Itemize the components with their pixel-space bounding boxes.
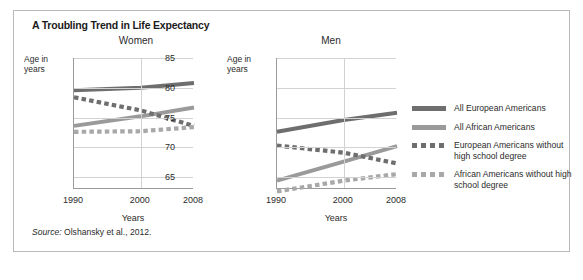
legend-swatch-dashed: [412, 143, 446, 148]
gridline-y: [277, 118, 396, 119]
panel-title-women: Women: [76, 35, 196, 46]
series-line: [277, 113, 397, 132]
y-axis-title-women: Age in years: [24, 54, 68, 74]
gridline-x: [141, 58, 142, 188]
source-citation: Olshansky et al., 2012.: [64, 227, 151, 237]
source-label: Source:: [32, 227, 62, 237]
x-tick-label: 2000: [130, 195, 150, 205]
legend-label: All European Americans: [454, 103, 546, 114]
legend-item: All European Americans: [412, 103, 577, 114]
x-tick-label: 2008: [386, 195, 406, 205]
legend-swatch-solid: [412, 125, 446, 130]
y-tick-label: 70: [145, 142, 175, 152]
legend-label: European Americans without high school d…: [454, 140, 577, 161]
series-layer-men: [277, 58, 397, 189]
legend-item: African Americans without high school de…: [412, 169, 577, 190]
legend-swatch-solid: [412, 106, 446, 111]
y-tick-label: 80: [145, 83, 175, 93]
figure-frame: A Troubling Trend in Life Expectancy Wom…: [13, 10, 570, 252]
chart-legend: All European AmericansAll African Americ…: [412, 103, 577, 198]
legend-swatch-dashed: [412, 172, 446, 177]
x-axis-title-women: Years: [73, 213, 193, 223]
gridline-y: [74, 118, 193, 119]
y-axis-title-men: Age in years: [227, 54, 271, 74]
series-layer-women: [74, 58, 194, 189]
gridline-y: [74, 88, 193, 89]
plot-area-men: [276, 58, 396, 189]
gridline-y: [277, 88, 396, 89]
gridline-y: [74, 147, 193, 148]
gridline-y: [74, 58, 193, 59]
x-tick-label: 2008: [183, 195, 203, 205]
x-tick-label: 2000: [333, 195, 353, 205]
legend-item: European Americans without high school d…: [412, 140, 577, 161]
x-tick-label: 1990: [266, 195, 286, 205]
legend-item: All African Americans: [412, 122, 577, 133]
y-tick-label: 85: [145, 53, 175, 63]
panel-title-men: Men: [271, 35, 391, 46]
x-tick-label: 1990: [63, 195, 83, 205]
series-line: [74, 127, 194, 132]
gridline-y: [277, 58, 396, 59]
plot-area-women: [73, 58, 193, 189]
series-line: [74, 83, 194, 90]
figure-title: A Troubling Trend in Life Expectancy: [32, 19, 209, 31]
y-tick-label: 75: [145, 113, 175, 123]
x-axis-title-men: Years: [276, 213, 396, 223]
gridline-y: [277, 147, 396, 148]
legend-label: African Americans without high school de…: [454, 169, 577, 190]
gridline-y: [277, 177, 396, 178]
gridline-x: [344, 58, 345, 188]
gridline-y: [74, 177, 193, 178]
source-note: Source: Olshansky et al., 2012.: [32, 227, 151, 237]
y-tick-label: 65: [145, 172, 175, 182]
legend-label: All African Americans: [454, 122, 535, 133]
